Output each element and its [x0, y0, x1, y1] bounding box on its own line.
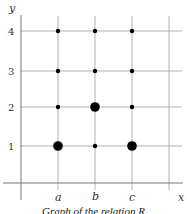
x-tick-a: a: [55, 191, 62, 204]
relation-point-a-1: [53, 141, 63, 151]
vertical-gridlines: [58, 16, 169, 190]
chart-caption: Graph of the relation R: [42, 205, 145, 214]
point-b-4: [93, 29, 97, 33]
x-axis-label: x: [178, 191, 185, 204]
x-tick-b: b: [92, 190, 99, 203]
point-b-3: [93, 69, 97, 73]
relation-graph: y 4 3 2 1 a b c x Graph of the relation …: [0, 0, 187, 214]
point-c-4: [130, 29, 134, 33]
point-a-3: [56, 69, 60, 73]
point-c-2: [130, 105, 134, 109]
point-c-3: [130, 69, 134, 73]
horizontal-gridlines: [20, 31, 182, 146]
x-tick-c: c: [129, 191, 135, 204]
point-b-1: [93, 144, 97, 148]
y-tick-4: 4: [8, 26, 14, 37]
relation-point-b-2: [90, 102, 100, 112]
point-a-4: [56, 29, 60, 33]
y-tick-1: 1: [8, 141, 14, 152]
point-a-2: [56, 105, 60, 109]
y-tick-2: 2: [8, 102, 14, 113]
relation-point-c-1: [127, 141, 137, 151]
y-axis-label: y: [8, 2, 16, 15]
y-tick-3: 3: [8, 66, 14, 77]
